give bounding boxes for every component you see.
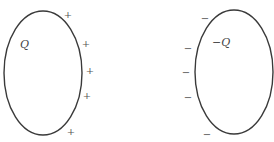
minus-charge-icon: −	[184, 92, 192, 103]
plus-charge-icon: +	[82, 38, 90, 49]
plus-charge-icon: +	[67, 126, 75, 137]
minus-charge-icon: −	[201, 13, 209, 24]
negative-charges: −−−−−	[182, 13, 211, 140]
minus-charge-icon: −	[184, 43, 192, 54]
plus-charge-icon: +	[86, 65, 94, 76]
left-conductor: Q +++++	[4, 9, 94, 137]
positive-charges: +++++	[64, 9, 94, 137]
plus-charge-icon: +	[83, 90, 91, 101]
left-conductor-label: Q	[20, 38, 29, 51]
right-conductor: −Q −−−−−	[182, 10, 273, 140]
left-conductor-outline	[4, 11, 82, 135]
plus-charge-icon: +	[64, 9, 72, 20]
capacitor-diagram: Q +++++ −Q −−−−−	[0, 0, 274, 142]
minus-charge-icon: −	[203, 129, 211, 140]
right-conductor-label: −Q	[212, 36, 230, 49]
minus-charge-icon: −	[182, 67, 190, 78]
right-conductor-outline	[195, 10, 273, 134]
